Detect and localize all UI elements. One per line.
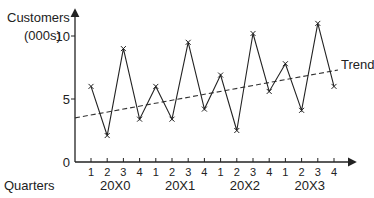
quarter-label: 3 <box>185 166 191 178</box>
y-tick-label: 0 <box>63 155 70 170</box>
quarter-label: 3 <box>315 166 321 178</box>
quarter-label: 1 <box>153 166 159 178</box>
trend-label: Trend <box>341 57 374 72</box>
quarter-label: 4 <box>266 166 272 178</box>
year-label: 20X1 <box>165 178 195 193</box>
year-label: 20X0 <box>100 178 130 193</box>
x-axis-label: Quarters <box>4 178 55 193</box>
quarter-label: 1 <box>282 166 288 178</box>
year-labels: 20X020X120X220X3 <box>100 178 325 193</box>
quarter-label: 2 <box>169 166 175 178</box>
customers-line-chart: Customers(000s) 0510 1234123412341234 20… <box>0 0 374 198</box>
year-label: 20X3 <box>295 178 325 193</box>
quarter-label: 1 <box>88 166 94 178</box>
quarter-label: 3 <box>120 166 126 178</box>
y-tick-label: 10 <box>56 29 70 44</box>
year-label: 20X2 <box>230 178 260 193</box>
quarter-label: 4 <box>137 166 143 178</box>
x-marker <box>283 61 288 66</box>
y-label-line: Customers <box>7 10 70 25</box>
quarter-label: 2 <box>234 166 240 178</box>
x-marker <box>153 84 158 89</box>
y-ticks: 0510 <box>56 29 75 170</box>
quarter-label: 3 <box>250 166 256 178</box>
x-ticks: 1234123412341234 <box>88 158 337 178</box>
y-tick-label: 5 <box>63 92 70 107</box>
quarter-label: 2 <box>104 166 110 178</box>
quarter-label: 1 <box>218 166 224 178</box>
quarter-label: 4 <box>331 166 337 178</box>
quarter-label: 4 <box>201 166 207 178</box>
quarter-label: 2 <box>299 166 305 178</box>
customers-series-line <box>91 23 334 135</box>
data-point-markers <box>89 21 337 138</box>
